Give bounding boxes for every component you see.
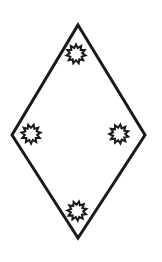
rhombus-diagram: [0, 0, 162, 262]
figure-canvas: [0, 0, 162, 262]
